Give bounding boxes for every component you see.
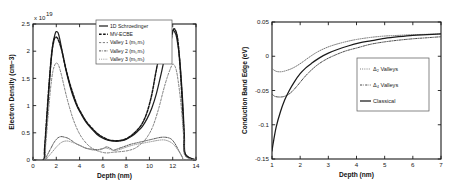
x-tick-label: 2 <box>55 162 59 169</box>
legend-label-3: Valley 1 (mₜ,mₗ) <box>110 39 145 45</box>
conduction-band-edge-plot: 1234567-0.15-0.1-0.0500.05Depth (nm)Cond… <box>231 0 463 187</box>
x-tick-label: 7 <box>439 161 443 168</box>
y-tick-label: 0 <box>266 52 270 59</box>
y-tick-label: 0.05 <box>257 18 270 25</box>
y-axis-label: Electron Density (cm−3) <box>8 54 16 129</box>
legend-label-3: Classical <box>373 98 395 104</box>
y-tick-label: 2 <box>27 47 31 54</box>
x-tick-label: 4 <box>78 162 82 169</box>
y-axis-exponent-value: 19 <box>46 11 53 17</box>
chart-panel-electron-density: 0246810121400.511.522.5x 1019Depth (nm)E… <box>0 0 231 187</box>
legend-label-1: 1D Schroedinger <box>110 23 149 29</box>
x-tick-label: 12 <box>169 162 176 169</box>
x-tick-label: 14 <box>193 162 200 169</box>
electron-density-plot: 0246810121400.511.522.5x 1019Depth (nm)E… <box>0 0 231 187</box>
legend-label-2: Δ₄ Valleys <box>373 82 398 88</box>
x-tick-label: 8 <box>124 162 128 169</box>
x-tick-label: 6 <box>411 161 415 168</box>
y-axis-label: Conduction Band Edge (eV) <box>241 47 249 134</box>
x-tick-label: 4 <box>355 161 359 168</box>
x-tick-label: 0 <box>31 162 35 169</box>
legend: 1D SchroedingerMV-ECBEValley 1 (mₜ,mₗ)Va… <box>96 20 172 64</box>
y-tick-label: 0.5 <box>21 129 30 136</box>
y-tick-label: -0.15 <box>255 155 270 162</box>
legend-label-1: Δ₂ Valleys <box>373 66 398 72</box>
y-tick-label: 1.5 <box>21 75 30 82</box>
x-axis-label: Depth (nm) <box>339 171 374 179</box>
y-tick-label: -0.05 <box>255 87 270 94</box>
x-tick-label: 6 <box>101 162 105 169</box>
y-tick-label: 2.5 <box>21 20 30 27</box>
legend-label-2: MV-ECBE <box>110 31 134 37</box>
x-tick-label: 5 <box>383 161 387 168</box>
legend-label-4: Valley 2 (mₜ,mₗ) <box>110 48 145 54</box>
y-tick-label: -0.1 <box>258 121 269 128</box>
y-tick-label: 0 <box>27 156 31 163</box>
chart-panel-band-edge: 1234567-0.15-0.1-0.0500.05Depth (nm)Cond… <box>231 0 463 187</box>
x-tick-label: 2 <box>298 161 302 168</box>
legend: Δ₂ ValleysΔ₄ ValleysClassical <box>357 58 429 111</box>
x-tick-label: 1 <box>270 161 274 168</box>
x-tick-label: 3 <box>327 161 331 168</box>
y-tick-label: 1 <box>27 102 31 109</box>
x-tick-label: 10 <box>146 162 153 169</box>
x-axis-label: Depth (nm) <box>97 172 132 180</box>
legend-label-5: Valley 3 (mₜ,mₜ) <box>110 56 145 62</box>
y-axis-exponent-label: x 10 <box>34 15 46 21</box>
figure-row: 0246810121400.511.522.5x 1019Depth (nm)E… <box>0 0 463 187</box>
